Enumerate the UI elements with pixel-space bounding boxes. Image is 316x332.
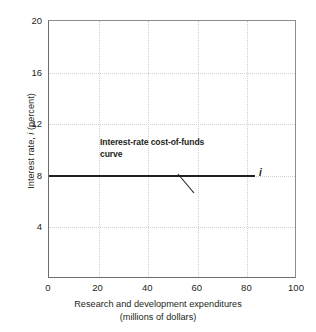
xtick-label-0: 0 xyxy=(28,283,68,293)
ytick-label-4: 4 xyxy=(18,222,42,232)
gridline-horizontal-16 xyxy=(49,73,295,74)
gridline-vertical-80 xyxy=(247,21,248,277)
y-axis-label-suffix: (percent) xyxy=(26,93,36,132)
xtick-label-100: 100 xyxy=(276,283,316,293)
xtick-label-60: 60 xyxy=(177,283,217,293)
curve-annotation: Interest-rate cost-of-funds curve xyxy=(100,136,204,160)
curve-annotation-line2: curve xyxy=(100,149,122,159)
xtick-label-80: 80 xyxy=(226,283,266,293)
gridline-horizontal-4 xyxy=(49,227,295,228)
gridline-horizontal-12 xyxy=(49,124,295,125)
x-axis-label: Research and development expenditures (m… xyxy=(0,298,316,324)
chart-figure: i Interest-rate cost-of-funds curve 20 1… xyxy=(0,0,316,332)
xtick-label-40: 40 xyxy=(127,283,167,293)
y-axis-label: Interest rate, i (percent) xyxy=(26,61,36,221)
y-axis-label-prefix: Interest rate, xyxy=(26,135,36,189)
x-axis-label-line1: Research and development expenditures xyxy=(74,299,242,309)
curve-symbol-label: i xyxy=(259,168,262,178)
xtick-label-20: 20 xyxy=(78,283,118,293)
curve-annotation-line1: Interest-rate cost-of-funds xyxy=(100,137,204,147)
x-axis-label-line2: (millions of dollars) xyxy=(0,311,316,324)
ytick-label-20: 20 xyxy=(18,16,42,26)
interest-rate-cost-of-funds-curve xyxy=(49,175,255,177)
